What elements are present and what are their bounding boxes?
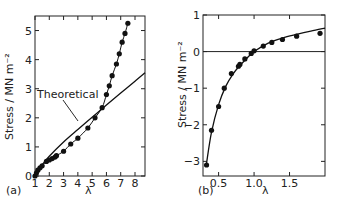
panel-a-x-axis-label: λ xyxy=(85,184,92,197)
data-point xyxy=(125,21,130,26)
data-point xyxy=(242,56,247,61)
data-point xyxy=(261,44,266,49)
data-point xyxy=(104,92,109,97)
y-tick-label: 1 xyxy=(25,141,32,154)
data-point xyxy=(204,162,209,167)
data-point xyxy=(110,73,115,78)
panel-a-label: (a) xyxy=(6,184,21,197)
x-tick-label: 3 xyxy=(60,177,67,190)
x-tick-label: 6 xyxy=(103,177,110,190)
x-tick-label: 7 xyxy=(117,177,124,190)
y-tick-label: 0 xyxy=(25,170,32,183)
data-point xyxy=(237,62,242,67)
data-point xyxy=(75,136,80,141)
y-tick-label: 4 xyxy=(25,54,32,67)
data-point xyxy=(40,163,45,168)
data-point xyxy=(120,40,125,45)
panel-a-annotation-leader xyxy=(63,100,78,121)
data-point xyxy=(114,61,119,66)
data-point xyxy=(107,83,112,88)
panel-b-label: (b) xyxy=(198,184,214,197)
data-point xyxy=(222,86,227,91)
figure: 12345678 012345 Theoretical (a) λ Stress… xyxy=(0,0,338,207)
panel-b-chart: 0.51.01.5 −3−2−101 (b) λ Stress / MN m⁻² xyxy=(176,9,325,197)
panel-a-annotation-theoretical: Theoretical xyxy=(36,88,98,101)
data-point xyxy=(317,31,322,36)
y-tick-label: 0 xyxy=(193,46,200,59)
y-tick-label: −3 xyxy=(184,155,200,168)
y-tick-label: 1 xyxy=(193,9,200,22)
data-point xyxy=(229,71,234,76)
y-tick-label: 2 xyxy=(25,112,32,125)
panel-a-y-ticks: 012345 xyxy=(25,25,145,183)
data-point xyxy=(85,125,90,130)
x-tick-label: 1.5 xyxy=(281,177,299,190)
x-tick-label: 4 xyxy=(74,177,81,190)
data-point xyxy=(92,115,97,120)
panel-a-chart: 12345678 012345 Theoretical (a) λ Stress… xyxy=(3,16,145,197)
data-point xyxy=(280,37,285,42)
data-point xyxy=(68,141,73,146)
x-tick-label: 1 xyxy=(32,177,39,190)
data-point xyxy=(54,153,59,158)
panel-a-y-axis-label: Stress / MN m⁻² xyxy=(3,53,16,140)
data-point xyxy=(269,40,274,45)
data-point xyxy=(100,105,105,110)
x-tick-label: 2 xyxy=(46,177,53,190)
data-point xyxy=(294,34,299,39)
panel-b-y-axis-label: Stress / MN m⁻² xyxy=(176,41,189,128)
y-tick-label: 3 xyxy=(25,83,32,96)
x-tick-label: 1.0 xyxy=(245,177,263,190)
x-tick-label: 8 xyxy=(132,177,139,190)
panel-b-x-axis-label: λ xyxy=(262,184,269,197)
panel-b-x-ticks: 0.51.01.5 xyxy=(210,15,298,190)
data-point xyxy=(117,51,122,56)
data-point xyxy=(61,149,66,154)
data-point xyxy=(251,48,256,53)
data-point xyxy=(216,104,221,109)
panel-b-theoretical-curve xyxy=(207,28,325,163)
data-point xyxy=(209,128,214,133)
data-point xyxy=(122,31,127,36)
y-tick-label: 5 xyxy=(25,25,32,38)
